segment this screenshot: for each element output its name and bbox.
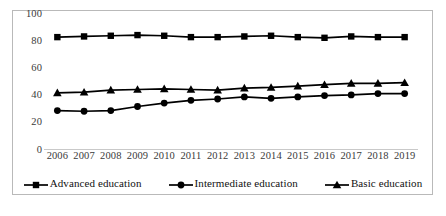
line-chart-figure: 020406080100 200620072008200920102011201… [0, 0, 446, 216]
y-tick-label: 40 [14, 90, 42, 101]
legend-item[interactable]: Advanced education [23, 177, 142, 190]
legend-label: Basic education [351, 177, 422, 190]
data-point-circle [81, 108, 88, 115]
data-point-circle [294, 94, 301, 101]
y-tick-label: 60 [14, 63, 42, 74]
y-tick-label: 20 [14, 117, 42, 128]
legend-label: Intermediate education [195, 177, 298, 190]
data-point-circle [268, 95, 275, 102]
x-tick-label: 2019 [388, 150, 422, 162]
y-tick-label: 0 [14, 145, 42, 156]
data-point-circle [401, 90, 408, 97]
data-point-circle [107, 107, 114, 114]
x-axis: 2006200720082009201020112012201320142015… [44, 150, 418, 166]
data-point-circle [161, 100, 168, 107]
data-point-square [401, 34, 407, 40]
data-point-square [32, 182, 38, 188]
series-1 [54, 90, 408, 114]
plot-area [44, 14, 418, 150]
data-point-square [348, 33, 354, 39]
data-point-square [295, 34, 301, 40]
data-point-square [134, 32, 140, 38]
data-point-square [161, 33, 167, 39]
data-point-circle [214, 96, 221, 103]
legend-item[interactable]: Basic education [324, 177, 422, 190]
data-point-circle [54, 107, 61, 114]
y-tick-label: 100 [14, 9, 42, 20]
data-point-circle [241, 94, 248, 101]
plot-svg [44, 14, 418, 150]
data-point-square [214, 34, 220, 40]
chart-legend: Advanced educationIntermediate education… [14, 173, 431, 193]
legend-label: Advanced education [50, 177, 142, 190]
data-point-square [108, 33, 114, 39]
data-point-circle [188, 97, 195, 104]
data-point-square [268, 33, 274, 39]
legend-item[interactable]: Intermediate education [168, 177, 298, 190]
data-point-square [375, 34, 381, 40]
data-point-circle [134, 103, 141, 110]
data-point-square [54, 34, 60, 40]
series-0 [54, 32, 408, 41]
data-point-square [321, 35, 327, 41]
y-tick-label: 80 [14, 36, 42, 47]
data-point-square [241, 33, 247, 39]
legend-marker-triangle-icon [324, 177, 350, 189]
data-point-circle [375, 90, 382, 97]
data-point-circle [321, 92, 328, 99]
legend-marker-circle-icon [168, 177, 194, 189]
data-point-circle [177, 182, 184, 189]
y-axis: 020406080100 [12, 14, 42, 150]
data-point-square [188, 34, 194, 40]
legend-marker-square-icon [23, 177, 49, 189]
data-point-square [81, 33, 87, 39]
data-point-circle [348, 92, 355, 99]
series-2 [53, 78, 409, 96]
